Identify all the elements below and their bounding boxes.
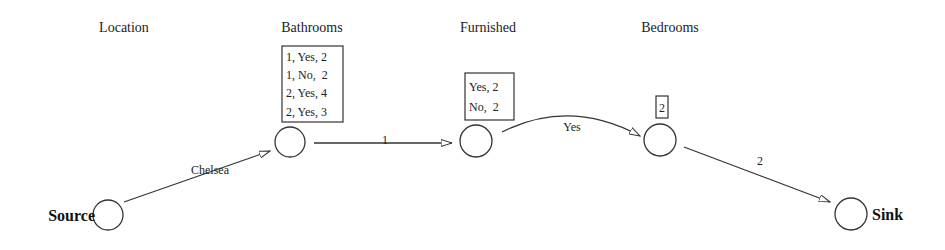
bathrooms-node [275,127,305,157]
header-location: Location [99,20,149,35]
header-furnished: Furnished [460,20,516,35]
furnished-value-1: Yes, 2 [469,80,498,94]
sink-node [835,198,867,230]
path-diagram: Location Bathrooms Furnished Bedrooms 1,… [0,0,945,250]
bathrooms-value-1: 1, Yes, 2 [286,50,327,64]
furnished-value-box: Yes, 2 No, 2 [465,73,514,120]
edge-label-location: Chelsea [191,163,230,177]
furnished-node [460,125,492,157]
header-bedrooms: Bedrooms [641,20,699,35]
bathrooms-value-4: 2, Yes, 3 [286,105,327,119]
source-node [93,200,123,230]
source-label: Source [48,207,95,224]
bathrooms-value-box: 1, Yes, 2 1, No, 2 2, Yes, 4 2, Yes, 3 [282,46,343,122]
sink-label: Sink [872,206,903,223]
edge-label-bathrooms: 1 [382,133,388,147]
bathrooms-value-2: 1, No, 2 [286,68,328,82]
bedrooms-value-1: 2 [659,101,665,115]
bedrooms-value-box: 2 [656,96,668,118]
edge-label-furnished: Yes [563,120,581,134]
edge-label-bedrooms: 2 [757,154,763,168]
header-bathrooms: Bathrooms [281,20,342,35]
bathrooms-value-3: 2, Yes, 4 [286,86,327,100]
furnished-value-2: No, 2 [469,100,499,114]
bedrooms-node [644,124,676,156]
